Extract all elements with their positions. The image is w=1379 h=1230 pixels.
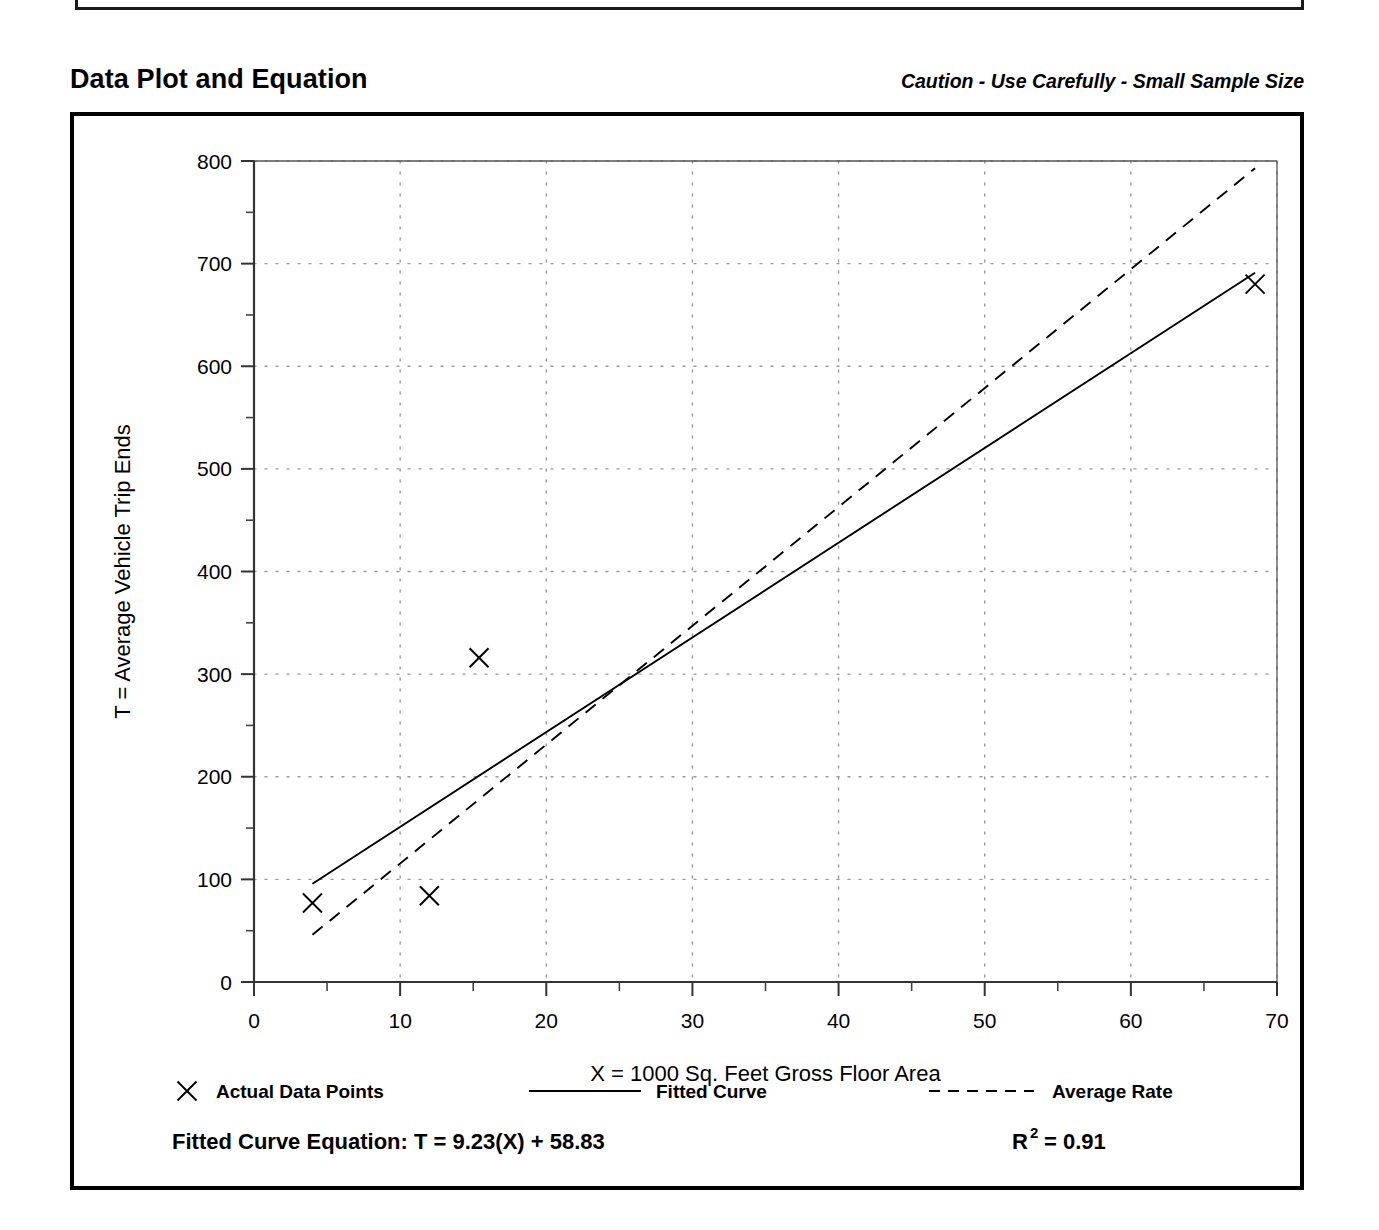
r-squared-value: R2= 0.91 <box>1012 1124 1106 1154</box>
r-squared-number: = 0.91 <box>1044 1129 1106 1154</box>
x-axis-tick-label: 20 <box>535 1009 558 1032</box>
previous-section-box-edge <box>75 0 1304 10</box>
caution-note: Caution - Use Carefully - Small Sample S… <box>901 70 1304 93</box>
equation-footer: Fitted Curve Equation: T = 9.23(X) + 58.… <box>172 1124 1106 1154</box>
x-axis-tick-label: 30 <box>681 1009 704 1032</box>
average-rate-line <box>312 168 1255 935</box>
x-axis-tick-label: 70 <box>1265 1009 1288 1032</box>
data-point-marker <box>303 893 322 912</box>
fitted-curve-line <box>312 273 1255 884</box>
x-axis-tick-label: 60 <box>1119 1009 1142 1032</box>
legend-label-actual-data-points: Actual Data Points <box>216 1081 384 1102</box>
y-axis-title: T = Average Vehicle Trip Ends <box>110 424 135 719</box>
data-point-marker <box>470 648 489 667</box>
r-squared-symbol: R <box>1012 1129 1028 1154</box>
legend-label-fitted-curve: Fitted Curve <box>656 1081 767 1102</box>
legend-item-actual-data-points: Actual Data Points <box>178 1081 384 1102</box>
data-series <box>303 168 1265 935</box>
data-point-marker <box>420 886 439 905</box>
y-axis-tick-label: 500 <box>197 457 232 480</box>
y-axis-tick-label: 100 <box>197 868 232 891</box>
fitted-curve-equation: Fitted Curve Equation: T = 9.23(X) + 58.… <box>172 1129 605 1154</box>
grid-lines <box>254 161 1277 982</box>
chart-svg: 0100200300400500600700800010203040506070… <box>74 116 1308 1194</box>
r-squared-exponent: 2 <box>1030 1124 1038 1141</box>
x-axis-tick-label: 0 <box>248 1009 260 1032</box>
x-axis-tick-label: 50 <box>973 1009 996 1032</box>
section-header: Data Plot and Equation Caution - Use Car… <box>70 64 1304 104</box>
y-axis-tick-label: 600 <box>197 355 232 378</box>
y-axis-tick-label: 400 <box>197 560 232 583</box>
chart-container: 0100200300400500600700800010203040506070… <box>70 112 1304 1190</box>
chart-page: Data Plot and Equation Caution - Use Car… <box>0 0 1379 1230</box>
page-title: Data Plot and Equation <box>70 64 368 95</box>
y-axis-tick-label: 700 <box>197 252 232 275</box>
plot-area: 0100200300400500600700800010203040506070… <box>74 116 1308 1194</box>
y-axis-tick-label: 0 <box>220 971 232 994</box>
tick-labels: 0100200300400500600700800010203040506070 <box>197 150 1289 1033</box>
x-axis-tick-label: 40 <box>827 1009 850 1032</box>
chart-legend: Actual Data PointsFitted CurveAverage Ra… <box>178 1081 1173 1102</box>
y-axis-tick-label: 800 <box>197 150 232 173</box>
y-axis-tick-label: 300 <box>197 663 232 686</box>
legend-item-average-rate: Average Rate <box>929 1081 1173 1102</box>
legend-label-average-rate: Average Rate <box>1052 1081 1173 1102</box>
x-axis-tick-label: 10 <box>388 1009 411 1032</box>
axes <box>241 161 1277 996</box>
y-axis-tick-label: 200 <box>197 765 232 788</box>
